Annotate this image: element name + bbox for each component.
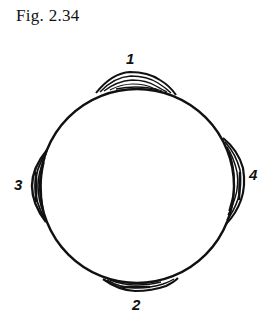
deposit-label-2: 2 xyxy=(132,296,140,313)
deposit-label-1: 1 xyxy=(126,50,134,67)
deposit-label-4: 4 xyxy=(249,166,257,183)
deposit-1-hatch xyxy=(96,72,176,95)
main-circle xyxy=(40,89,234,283)
deposit-label-3: 3 xyxy=(14,176,22,193)
circle-diagram xyxy=(0,0,279,336)
